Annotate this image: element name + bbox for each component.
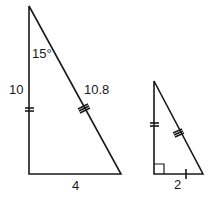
small-base-label: 2 xyxy=(174,177,181,192)
hypotenuse-label: 10.8 xyxy=(84,82,109,97)
small-triangle xyxy=(150,81,203,179)
left-side-label: 10 xyxy=(9,82,23,97)
base-label: 4 xyxy=(72,178,79,193)
angle-label: 15° xyxy=(32,46,52,61)
diagram-canvas: 15° 10 10.8 4 2 xyxy=(0,0,210,200)
triangles-svg: 15° 10 10.8 4 2 xyxy=(0,0,210,200)
